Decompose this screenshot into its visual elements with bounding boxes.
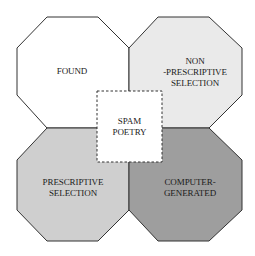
label-found: FOUND bbox=[32, 66, 112, 77]
label-prescriptive-selection: PRESCRIPTIVE SELECTION bbox=[28, 177, 118, 199]
label-non-prescriptive-selection: NON -PRESCRIPTIVE SELECTION bbox=[150, 56, 240, 89]
label-computer-generated: COMPUTER- GENERATED bbox=[145, 177, 235, 199]
label-spam-poetry: SPAM POETRY bbox=[97, 116, 162, 138]
